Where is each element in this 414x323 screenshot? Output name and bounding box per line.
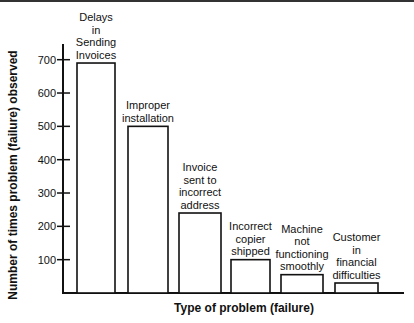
bar xyxy=(128,126,168,293)
y-tick-label: 700 xyxy=(38,54,56,66)
bar xyxy=(77,63,115,293)
category-label: Machinenotfunctioningsmoothly xyxy=(275,223,328,273)
y-tick-label: 100 xyxy=(38,254,56,266)
category-label: Improperinstallation xyxy=(122,99,174,124)
bar xyxy=(281,275,323,293)
bar xyxy=(335,283,378,293)
y-tick-label: 500 xyxy=(38,120,56,132)
y-axis-label: Number of times problem (failure) observ… xyxy=(6,50,20,299)
bar xyxy=(231,260,270,293)
category-label: Incorrectcopiershipped xyxy=(229,220,272,258)
y-tick-label: 300 xyxy=(38,187,56,199)
y-tick-label: 400 xyxy=(38,154,56,166)
y-tick-label: 600 xyxy=(38,87,56,99)
y-tick-label: 200 xyxy=(38,220,56,232)
x-axis-label: Type of problem (failure) xyxy=(174,301,314,315)
bar xyxy=(179,213,221,293)
category-label: DelaysinSendingInvoices xyxy=(76,11,116,61)
category-label: Invoicesent toincorrectaddress xyxy=(179,161,221,211)
category-label: Customerinfinancialdifficulties xyxy=(332,231,380,281)
